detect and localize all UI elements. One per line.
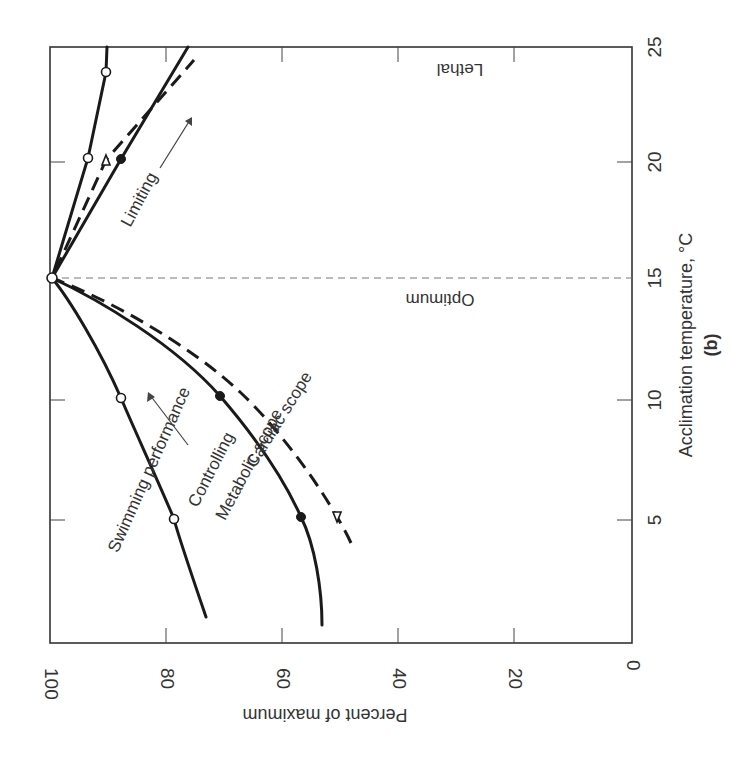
x-tick-20: 20 [644,151,665,172]
percent-tick-labels: 100 80 60 40 20 0 [41,660,644,700]
limiting-arrowhead-icon [185,117,192,126]
x-tick-5: 5 [644,515,665,526]
percent-ticks [166,47,514,643]
y-tick-0: 0 [623,660,644,671]
x-tick-25: 25 [644,36,665,57]
y-tick-20: 20 [505,668,526,689]
y-axis-label: Percent of maximum [242,705,407,725]
swimming-performance-label: Swimming performance [104,384,194,555]
plot-frame [50,47,632,643]
chart-canvas: 100 80 60 40 20 0 5 10 15 20 25 Acclimat… [0,0,733,783]
y-tick-80: 80 [157,668,178,689]
y-tick-60: 60 [273,668,294,689]
limiting-label: Limiting [117,169,161,230]
cardiac-scope-label: Cardiac scope [242,368,316,470]
y-tick-100: 100 [41,668,62,700]
x-axis-label: Acclimation temperature, °C [676,233,696,457]
panel-label: (b) [701,334,721,357]
y-tick-40: 40 [389,668,410,689]
optimum-label: Optimum [406,290,475,309]
optimum-point [47,273,57,283]
lethal-label: Lethal [437,60,483,79]
limiting-arrow [160,120,190,168]
x-tick-10: 10 [644,389,665,410]
temperature-tick-labels: 5 10 15 20 25 [644,36,665,525]
x-tick-15: 15 [644,267,665,288]
